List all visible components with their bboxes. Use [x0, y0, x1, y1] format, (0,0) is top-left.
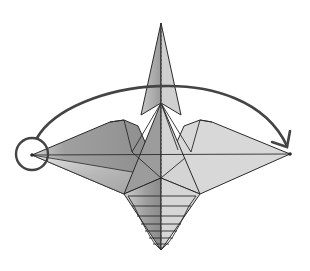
left-point-dot — [30, 153, 34, 157]
paper-model — [32, 23, 290, 250]
right-point-dot — [288, 152, 292, 156]
origami-diagram — [0, 0, 310, 271]
top-spike-right — [161, 23, 181, 115]
top-spike-left — [141, 23, 161, 115]
